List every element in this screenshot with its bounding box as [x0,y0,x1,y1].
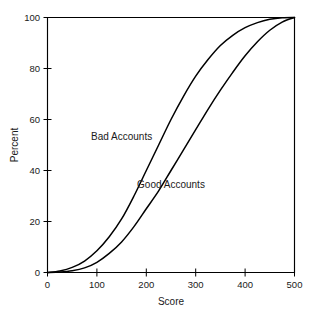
y-tick-label: 40 [29,165,40,176]
x-axis-title: Score [158,296,185,307]
y-tick-labels: 100 80 60 40 20 0 [24,12,40,278]
x-tick-label: 400 [237,279,253,290]
y-tick-label: 60 [29,114,40,125]
chart-canvas: 100 80 60 40 20 0 0 100 200 300 400 500 … [0,0,318,311]
plot-frame [48,18,295,273]
chart-figure: 100 80 60 40 20 0 0 100 200 300 400 500 … [0,0,318,311]
series-annotation-good-accounts: Good Accounts [137,179,205,190]
series-annotation-bad-accounts: Bad Accounts [91,131,152,142]
x-tick-label: 500 [287,279,303,290]
y-tick-label: 20 [29,216,40,227]
x-tick-label: 0 [45,279,50,290]
y-axis-title: Percent [9,128,20,163]
x-tick-label: 200 [138,279,154,290]
x-tick-label: 300 [188,279,204,290]
series-line-bad-accounts [48,18,295,273]
x-tick-label: 100 [89,279,105,290]
y-tick-label: 100 [24,12,40,23]
series-line-good-accounts [48,18,295,273]
x-tick-labels: 0 100 200 300 400 500 [45,279,303,290]
data-series-group [48,18,295,273]
y-tick-label: 80 [29,63,40,74]
y-tick-label: 0 [35,267,40,278]
